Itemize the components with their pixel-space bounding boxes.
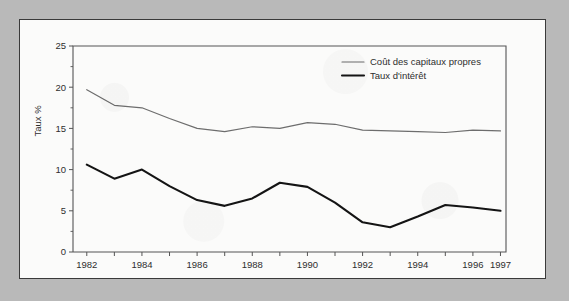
x-tick-label: 1992 <box>352 259 373 270</box>
chart-axes <box>69 46 506 256</box>
x-tick-label: 1996 <box>462 259 483 270</box>
legend-label-2: Taux d'intérêt <box>370 70 427 81</box>
legend-label-1: Coût des capitaux propres <box>370 56 481 67</box>
chart-series <box>87 90 501 228</box>
y-tick-label: 20 <box>55 82 66 93</box>
y-tick-label: 10 <box>55 164 66 175</box>
y-tick-label: 5 <box>61 205 66 216</box>
chart-labels: 0510152025198219841986198819901992199419… <box>32 40 511 270</box>
x-tick-label: 1997 <box>490 259 511 270</box>
line-chart: 0510152025198219841986198819901992199419… <box>20 20 547 280</box>
x-tick-label: 1986 <box>187 259 208 270</box>
y-axis-title: Taux % <box>32 105 43 137</box>
x-tick-label: 1984 <box>131 259 152 270</box>
y-tick-label: 25 <box>55 40 66 51</box>
x-tick-label: 1994 <box>407 259 428 270</box>
y-tick-label: 0 <box>61 246 66 257</box>
chart-figure: 0510152025198219841986198819901992199419… <box>20 20 547 280</box>
x-tick-label: 1988 <box>242 259 263 270</box>
document-page: 0510152025198219841986198819901992199419… <box>19 19 546 279</box>
x-tick-label: 1982 <box>76 259 97 270</box>
series-line-1 <box>87 90 501 133</box>
x-tick-label: 1990 <box>297 259 318 270</box>
page-canvas: 0510152025198219841986198819901992199419… <box>0 0 569 301</box>
y-tick-label: 15 <box>55 123 66 134</box>
chart-legend: Coût des capitaux propresTaux d'intérêt <box>342 56 481 81</box>
series-line-2 <box>87 165 501 228</box>
